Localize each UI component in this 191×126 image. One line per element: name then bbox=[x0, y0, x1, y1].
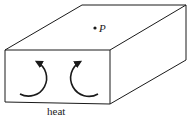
box-diagram: P heat bbox=[0, 0, 191, 126]
right-face-edges bbox=[110, 5, 186, 104]
left-convection-arrow-icon bbox=[20, 62, 47, 96]
box-outline bbox=[5, 5, 186, 104]
point-p-dot bbox=[93, 26, 96, 29]
heat-label: heat bbox=[47, 105, 65, 117]
right-convection-arrow-icon bbox=[71, 62, 98, 96]
point-p-label: P bbox=[98, 22, 106, 34]
